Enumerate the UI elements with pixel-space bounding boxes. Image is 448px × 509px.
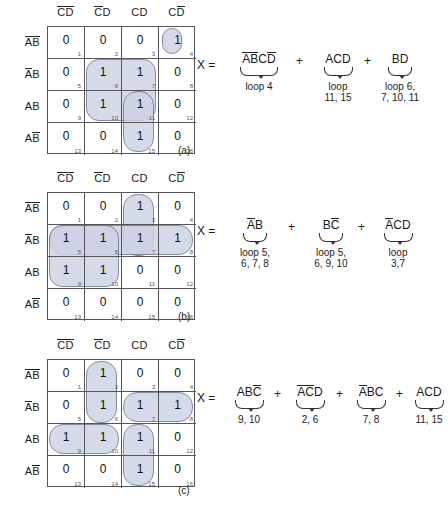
term-brace: [357, 400, 386, 409]
column-header-row: CDCDCDCD: [47, 6, 195, 24]
cell-number: 8: [190, 249, 193, 255]
cell-number: 7: [152, 83, 155, 89]
cell-number: 5: [78, 416, 81, 422]
cell-value: 1: [85, 65, 121, 79]
plus-operator: +: [274, 387, 281, 401]
cell-value: 0: [159, 199, 196, 213]
cell-number: 13: [74, 314, 81, 320]
cell-value: 1: [85, 263, 121, 277]
cell-value: 1: [159, 398, 196, 412]
cell-number: 6: [115, 249, 118, 255]
column-header-3: CD: [121, 339, 158, 351]
row-header-4: AB: [6, 455, 44, 487]
cell-value: 1: [122, 199, 158, 213]
equation-term: ABC9, 10: [226, 385, 272, 425]
cell-value: 1: [85, 398, 121, 412]
kmap-cell: 05: [48, 59, 85, 91]
cell-number: 15: [148, 481, 155, 487]
cell-value: 0: [122, 263, 158, 277]
karnaugh-map-b: CDCDCDCDABABABAB010213041516171819110011…: [6, 166, 194, 326]
cell-value: 0: [159, 430, 196, 444]
cell-value: 0: [159, 65, 196, 79]
term-expression: ABC: [226, 385, 272, 399]
term-label: loop 4: [228, 81, 290, 92]
cell-number: 8: [190, 416, 193, 422]
equation-lhs: X =: [197, 224, 215, 238]
cell-number: 12: [186, 281, 193, 287]
cell-value: 0: [159, 263, 196, 277]
cell-number: 1: [78, 51, 81, 57]
equation-term: ABloop 5, 6, 7, 8: [228, 218, 282, 269]
equation-c: X =ABC9, 10ACD2, 6ABC7, 8ACD11, 15+++: [196, 333, 396, 493]
cell-value: 0: [48, 33, 84, 47]
cell-value: 1: [122, 430, 158, 444]
cell-value: 1: [122, 398, 158, 412]
cell-number: 9: [78, 115, 81, 121]
equation-term: ACDloop 3,7: [372, 218, 424, 269]
term-label: loop 5, 6, 7, 8: [228, 247, 282, 269]
kmap-cell: 19: [48, 424, 85, 456]
cell-value: 1: [85, 430, 121, 444]
cell-value: 0: [48, 398, 84, 412]
cell-number: 10: [111, 448, 118, 454]
term-expression: ACD: [312, 52, 364, 66]
kmap-cell: 05: [48, 392, 85, 424]
cell-value: 0: [48, 462, 84, 476]
cell-value: 0: [48, 366, 84, 380]
karnaugh-map-a: CDCDCDCDABABABAB010203140516170809110111…: [6, 0, 194, 160]
cell-number: 10: [111, 115, 118, 121]
cell-value: 1: [122, 97, 158, 111]
kmap-cell: 111: [122, 91, 159, 123]
cell-value: 0: [122, 366, 158, 380]
term-label: loop 11, 15: [312, 81, 364, 103]
row-header-1: AB: [6, 26, 44, 58]
kmap-cell: 115: [122, 456, 159, 488]
kmap-cell: 16: [85, 392, 122, 424]
cell-value: 1: [48, 263, 84, 277]
row-header-3: AB: [6, 256, 44, 288]
cell-number: 11: [149, 448, 155, 454]
column-header-row: CDCDCDCD: [47, 172, 195, 190]
kmap-cell: 013: [48, 289, 85, 321]
kmap-cell: 014: [85, 123, 122, 155]
cell-value: 0: [159, 366, 196, 380]
kmap-cell: 18: [159, 392, 196, 424]
column-header-2: CD: [84, 339, 121, 352]
equation-term: ACDloop 11, 15: [312, 52, 364, 103]
kmap-cell: 03: [122, 27, 159, 59]
column-header-2: CD: [84, 6, 121, 19]
term-brace: [296, 400, 325, 409]
cell-value: 1: [48, 231, 84, 245]
cell-value: 0: [85, 199, 121, 213]
kmap-cell: 110: [85, 257, 122, 289]
term-brace: [388, 67, 412, 76]
cell-number: 14: [111, 148, 118, 154]
kmap-cell: 015: [122, 289, 159, 321]
kmap-cell: 16: [85, 59, 122, 91]
equation-term: BDloop 6, 7, 10, 11: [376, 52, 424, 103]
cell-value: 1: [48, 430, 84, 444]
figure-caption-c: (c): [178, 485, 190, 496]
cell-value: 0: [48, 97, 84, 111]
column-header-4: CD: [158, 6, 195, 19]
term-label: loop 6, 7, 10, 11: [376, 81, 424, 103]
cell-value: 1: [159, 231, 196, 245]
cell-number: 13: [74, 481, 81, 487]
row-header-3: AB: [6, 90, 44, 122]
cell-number: 8: [190, 83, 193, 89]
cell-value: 0: [159, 462, 196, 476]
cell-number: 15: [148, 148, 155, 154]
cell-number: 6: [115, 416, 118, 422]
figure-caption-a: (a): [178, 145, 190, 156]
row-header-3: AB: [6, 423, 44, 455]
cell-value: 1: [85, 366, 121, 380]
column-header-4: CD: [158, 172, 195, 185]
column-header-3: CD: [121, 6, 158, 18]
column-header-2: CD: [84, 172, 121, 185]
kmap-cell: 17: [122, 59, 159, 91]
cell-value: 0: [122, 295, 158, 309]
kmap-cell: 012: [159, 424, 196, 456]
kmap-cell: 01: [48, 27, 85, 59]
kmap-grid: 010213041516171819110011012013014015016: [47, 192, 195, 320]
term-label: 11, 15: [406, 414, 448, 425]
